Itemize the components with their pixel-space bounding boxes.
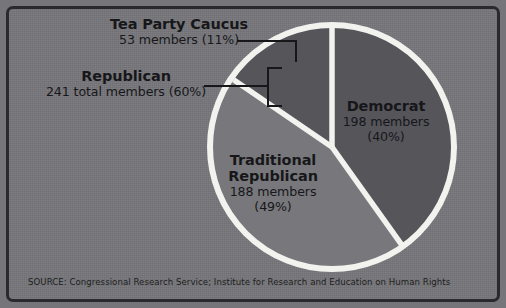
tea-party-detail: 53 members (11%) [86, 32, 272, 47]
label-democrat: Democrat 198 members (40%) [322, 98, 450, 144]
democrat-detail-1: 198 members [322, 114, 450, 129]
republican-detail: 241 total members (60%) [18, 84, 234, 99]
democrat-title: Democrat [322, 98, 450, 114]
tea-party-title: Tea Party Caucus [86, 16, 272, 32]
label-traditional-republican: Traditional Republican 188 members (49%) [198, 152, 348, 214]
label-republican: Republican 241 total members (60%) [18, 68, 234, 99]
republican-title: Republican [18, 68, 234, 84]
chart-figure: Tea Party Caucus 53 members (11%) Republ… [0, 0, 506, 308]
traditional-republican-title-1: Traditional [198, 152, 348, 168]
democrat-detail-2: (40%) [322, 129, 450, 144]
label-tea-party: Tea Party Caucus 53 members (11%) [86, 16, 272, 47]
traditional-republican-detail-2: (49%) [198, 199, 348, 214]
traditional-republican-detail-1: 188 members [198, 184, 348, 199]
traditional-republican-title-2: Republican [198, 168, 348, 184]
source-note: SOURCE: Congressional Research Service; … [28, 277, 450, 287]
